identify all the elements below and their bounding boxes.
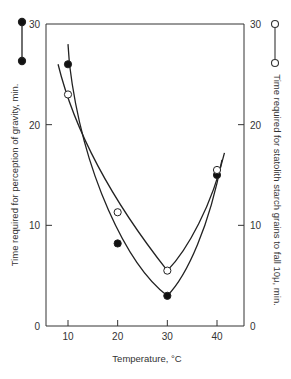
y-tick-label-right: 0 xyxy=(250,321,256,332)
x-tick-label: 30 xyxy=(162,331,174,342)
x-tick-label: 40 xyxy=(211,331,223,342)
legend-right-open xyxy=(272,21,279,67)
axis-ticks: 1020304001020300102030 xyxy=(29,19,262,342)
y-tick-label-left: 30 xyxy=(29,19,41,30)
y-tick-label-left: 0 xyxy=(34,321,40,332)
data-point-open xyxy=(64,91,71,98)
x-tick-label: 10 xyxy=(62,331,74,342)
x-tick-label: 20 xyxy=(112,331,124,342)
data-point-filled xyxy=(114,240,121,247)
data-points xyxy=(64,61,220,300)
data-point-open xyxy=(164,267,171,274)
x-axis-label: Temperature, °C xyxy=(112,353,181,364)
data-point-open xyxy=(114,209,121,216)
y-tick-label-right: 10 xyxy=(250,220,262,231)
data-point-filled xyxy=(64,61,71,68)
y-axis-label-left: Time required for perception of gravity,… xyxy=(9,84,20,267)
temperature-chart: 1020304001020300102030 xyxy=(0,0,291,379)
y-tick-label-right: 30 xyxy=(250,19,262,30)
y-tick-label-left: 20 xyxy=(29,120,41,131)
fitted-curves xyxy=(58,44,224,296)
legend-left-filled xyxy=(19,19,26,65)
y-tick-label-right: 20 xyxy=(250,120,262,131)
y-tick-label-left: 10 xyxy=(29,220,41,231)
curve-perception xyxy=(68,44,222,296)
data-point-filled xyxy=(164,292,171,299)
y-axis-label-right: Time required for statolith starch grain… xyxy=(272,74,283,306)
data-point-open xyxy=(213,166,220,173)
